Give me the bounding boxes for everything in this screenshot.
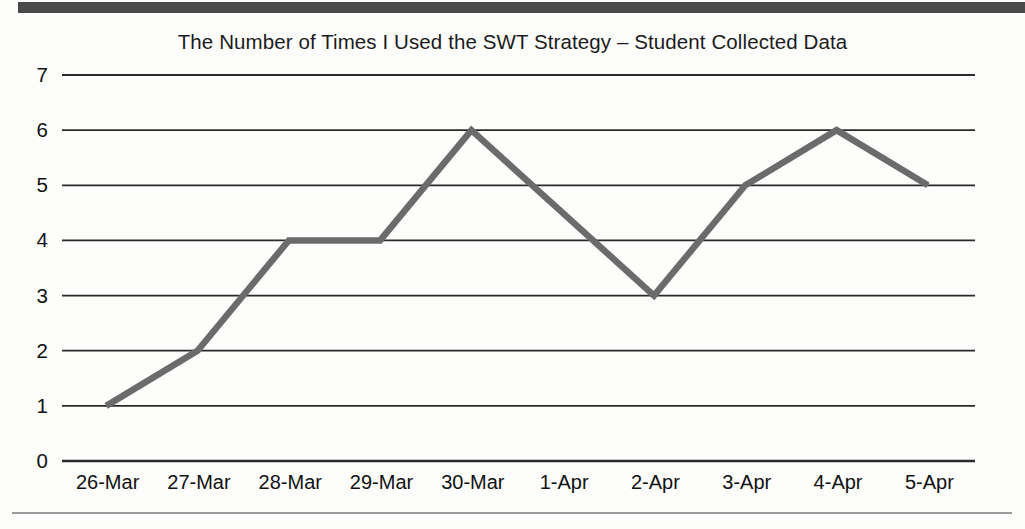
scan-bottom-rule [12,512,1012,514]
data-line [106,130,928,406]
y-tick-label: 4 [14,228,48,252]
y-tick-label: 6 [14,118,48,142]
scanned-page: The Number of Times I Used the SWT Strat… [0,0,1025,529]
y-tick-label: 3 [14,284,48,308]
y-tick-label: 5 [14,173,48,197]
x-tick-label: 1-Apr [540,471,589,494]
x-tick-label: 30-Mar [441,471,504,494]
y-tick-label: 7 [14,63,48,87]
x-tick-label: 2-Apr [631,471,680,494]
chart-plot-area [0,14,1025,509]
x-tick-label: 4-Apr [814,471,863,494]
scan-top-edge-band [18,2,1025,13]
line-chart-figure: The Number of Times I Used the SWT Strat… [0,14,1025,509]
y-tick-label: 1 [14,394,48,418]
x-tick-label: 5-Apr [905,471,954,494]
y-tick-label: 2 [14,339,48,363]
x-tick-label: 29-Mar [350,471,413,494]
y-tick-label: 0 [14,449,48,473]
x-tick-label: 27-Mar [167,471,230,494]
x-tick-label: 26-Mar [76,471,139,494]
x-tick-label: 28-Mar [259,471,322,494]
data-series-group [106,130,928,406]
x-tick-label: 3-Apr [722,471,771,494]
